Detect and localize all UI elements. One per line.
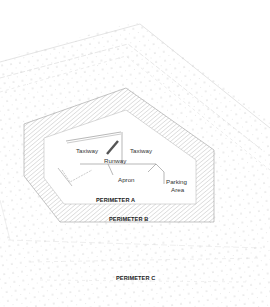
perimeter-c-label: PERIMETER C: [116, 275, 155, 281]
perimeter-a-label: PERIMETER A: [96, 197, 135, 203]
airport-perimeter-diagram: Taxiway Taxiway Runway Apron Parking Are…: [0, 0, 270, 307]
taxiway-left-label: Taxiway: [76, 147, 99, 154]
parking-area-label-line2: Area: [171, 186, 185, 193]
taxiway-right-label: Taxiway: [130, 147, 153, 154]
perimeter-b-label: PERIMETER B: [109, 216, 148, 222]
parking-area-label-line1: Parking: [166, 178, 188, 185]
apron-label: Apron: [118, 176, 135, 183]
runway-label: Runway: [104, 157, 127, 164]
